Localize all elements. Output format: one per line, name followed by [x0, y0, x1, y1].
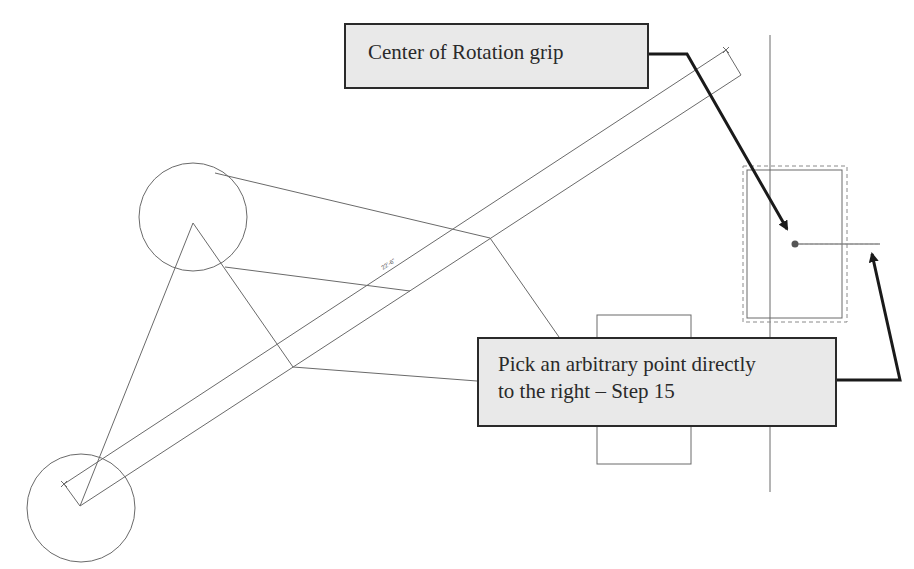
link-lower [293, 367, 477, 381]
beam-dimension-label: 22'-6" [380, 257, 396, 270]
center-of-rotation-grip[interactable] [792, 241, 799, 248]
callout-bottom-line-2: to the right – Step 15 [498, 378, 835, 405]
callout-bottom-line-1: Pick an arbitrary point directly [498, 351, 835, 378]
triangle-left-edge [80, 223, 193, 506]
callout-top-text: Center of Rotation grip [368, 39, 647, 66]
triangle-right-edge [193, 223, 293, 367]
beam-left-cap [64, 484, 80, 506]
callout-center-of-rotation: Center of Rotation grip [344, 23, 649, 89]
beam-end-marker-left [61, 481, 67, 487]
leader-bottom-arrow [836, 254, 900, 380]
upper-pivot-circle [139, 163, 247, 271]
lower-pivot-circle [27, 454, 135, 562]
callout-pick-point-step-15: Pick an arbitrary point directly to the … [477, 337, 837, 427]
leader-top-arrow [648, 54, 787, 229]
beam-end-marker-right [723, 47, 729, 53]
beam-right-cap [726, 50, 741, 75]
tangent-link-upper [215, 173, 490, 238]
beam-lower-edge [80, 75, 741, 506]
link-down-to-callout [490, 238, 559, 337]
